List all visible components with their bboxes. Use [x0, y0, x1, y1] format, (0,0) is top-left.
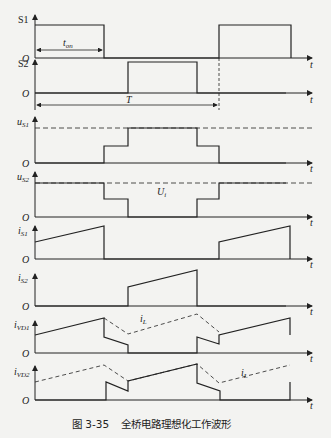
- trace-is2: [35, 270, 312, 306]
- label-s2: S2: [18, 58, 29, 69]
- label-ui: Ui: [157, 186, 166, 199]
- origin-ivd2: O: [22, 395, 29, 406]
- t-axis-us2: t: [310, 217, 313, 228]
- t-axis-us1: t: [310, 163, 313, 174]
- t-axis-s1: t: [310, 59, 313, 70]
- trace-us1: [35, 117, 312, 163]
- label-s1: S1: [18, 14, 29, 25]
- label-ivd1: iVD1: [14, 319, 30, 332]
- t-axis-s2: t: [310, 94, 313, 105]
- origin-is2: O: [22, 301, 29, 312]
- trace-s2: [35, 58, 312, 110]
- trace-s1: [35, 15, 312, 58]
- origin-ivd1: O: [22, 348, 29, 359]
- label-us2: uS2: [17, 171, 30, 184]
- origin-s2: O: [22, 88, 29, 99]
- origin-is1: O: [22, 254, 29, 265]
- t-axis-ivd1: t: [310, 353, 313, 364]
- label-us1: uS1: [17, 116, 29, 129]
- trace-ivd1: [35, 314, 312, 353]
- t-axis-is2: t: [310, 306, 313, 317]
- trace-ivd2: [35, 364, 312, 400]
- label-is1: iS1: [18, 225, 28, 238]
- label-ivd2: iVD2: [14, 366, 30, 379]
- t-axis-is1: t: [310, 259, 313, 270]
- label-il-1: iL: [140, 313, 147, 326]
- label-period: T: [126, 94, 133, 105]
- label-t-on: ton: [63, 37, 73, 50]
- waveform-diagram: S1 O t ton S2 O t T uS1 O t uS2 O t Ui i…: [0, 0, 331, 438]
- label-is2: iS2: [18, 272, 28, 285]
- t-axis-ivd2: t: [310, 400, 313, 411]
- axis-labels: S1 O t ton S2 O t T uS1 O t uS2 O t Ui i…: [14, 14, 313, 411]
- label-il-2: iL: [241, 367, 248, 380]
- trace-us2: [35, 172, 314, 217]
- origin-us2: O: [22, 212, 29, 223]
- trace-is1: [35, 226, 312, 259]
- origin-us1: O: [22, 158, 29, 169]
- figure-caption: 图 3-35全桥电路理想化工作波形: [72, 418, 232, 430]
